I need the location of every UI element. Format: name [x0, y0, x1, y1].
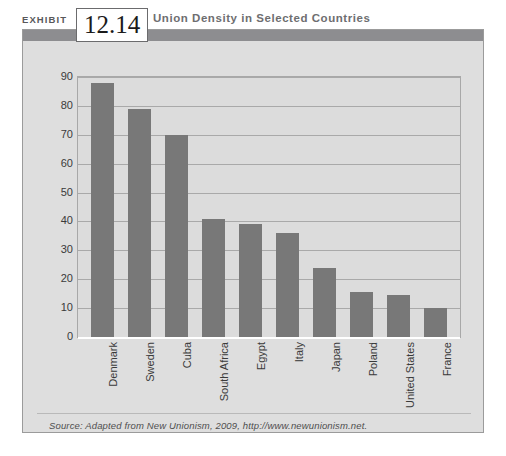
bar-united-states	[387, 295, 410, 337]
bar-cuba	[165, 135, 188, 337]
y-tick-label-90: 90	[37, 70, 73, 82]
y-tick-label-60: 60	[37, 157, 73, 169]
chart-panel: 0102030405060708090 DenmarkSwedenCubaSou…	[22, 29, 484, 433]
bar-egypt	[239, 224, 262, 337]
y-tick-label-0: 0	[37, 330, 73, 342]
x-tick-label-japan: Japan	[330, 342, 342, 372]
x-tick-slot: Egypt	[239, 340, 262, 420]
x-tick-slot: South Africa	[202, 340, 225, 420]
bar-japan	[313, 268, 336, 337]
bar-france	[424, 308, 447, 337]
x-tick-label-denmark: Denmark	[107, 342, 119, 387]
y-tick-label-80: 80	[37, 99, 73, 111]
x-tick-slot: Sweden	[127, 340, 150, 420]
y-axis: 0102030405060708090	[37, 70, 73, 344]
bar-poland	[350, 292, 373, 337]
x-axis: DenmarkSwedenCubaSouth AfricaEgyptItalyJ…	[77, 340, 461, 420]
x-tick-slot: Denmark	[90, 340, 113, 420]
x-tick-label-poland: Poland	[367, 342, 379, 376]
x-tick-slot: Italy	[276, 340, 299, 420]
x-tick-label-united-states: United States	[404, 342, 416, 408]
bar-sweden	[128, 109, 151, 337]
x-tick-slot: United States	[388, 340, 411, 420]
x-tick-slot: France	[425, 340, 448, 420]
x-tick-label-sweden: Sweden	[144, 342, 156, 382]
bar-italy	[276, 233, 299, 337]
x-tick-slot: Japan	[313, 340, 336, 420]
exhibit-title: Union Density in Selected Countries	[153, 12, 370, 24]
x-tick-label-cuba: Cuba	[181, 342, 193, 368]
exhibit-number: 12.14	[77, 11, 147, 39]
y-tick-label-20: 20	[37, 272, 73, 284]
x-tick-label-egypt: Egypt	[255, 342, 267, 370]
y-tick-label-70: 70	[37, 128, 73, 140]
y-tick-label-40: 40	[37, 214, 73, 226]
y-tick-label-50: 50	[37, 186, 73, 198]
y-tick-label-30: 30	[37, 243, 73, 255]
x-tick-label-south-africa: South Africa	[218, 342, 230, 401]
y-tick-label-10: 10	[37, 301, 73, 313]
x-tick-label-france: France	[441, 342, 453, 376]
bar-south-africa	[202, 219, 225, 337]
x-tick-slot: Poland	[350, 340, 373, 420]
source-note: Source: Adapted from New Unionism, 2009,…	[49, 420, 367, 431]
exhibit-label: EXHIBIT	[22, 14, 67, 25]
bar-series	[78, 77, 460, 337]
exhibit-number-box: 12.14	[76, 8, 148, 42]
x-tick-label-italy: Italy	[293, 342, 305, 362]
source-divider	[37, 413, 471, 414]
gridline-0	[78, 337, 460, 339]
bar-denmark	[91, 83, 114, 337]
plot-area	[77, 76, 461, 338]
x-tick-slot: Cuba	[164, 340, 187, 420]
